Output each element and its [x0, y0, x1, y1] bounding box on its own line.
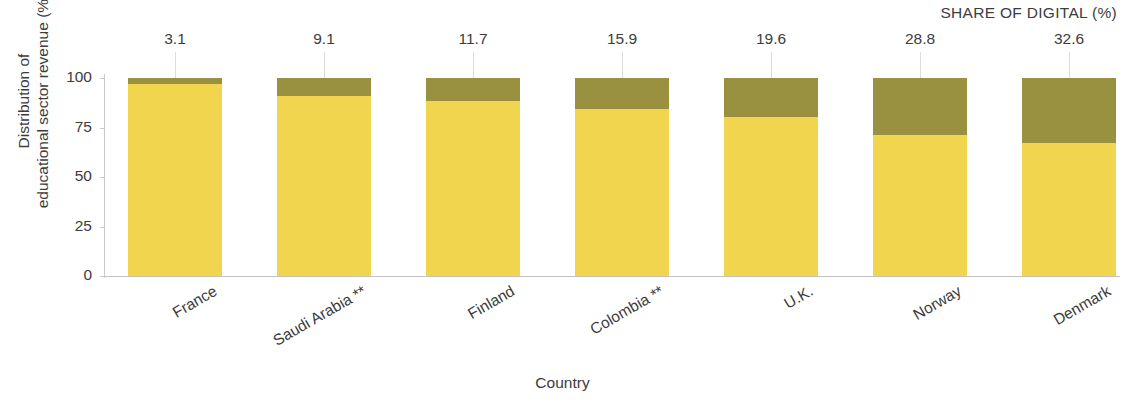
x-axis-tick-label: Denmark [1051, 282, 1114, 329]
value-leader-line [771, 52, 772, 78]
bar-segment-non-digital[interactable] [1022, 143, 1116, 276]
x-axis-tick-label: Norway [910, 282, 965, 324]
bar-segment-non-digital[interactable] [277, 96, 371, 276]
value-leader-line [622, 52, 623, 78]
bar-value-label: 9.1 [264, 30, 384, 48]
y-axis-tick-mark [100, 78, 105, 79]
bar-value-label: 32.6 [1009, 30, 1125, 48]
bar-segment-non-digital[interactable] [128, 84, 222, 276]
bar-value-label: 11.7 [413, 30, 533, 48]
bar-value-label: 28.8 [860, 30, 980, 48]
y-axis-tick-mark [100, 227, 105, 228]
y-axis-tick-label: 25 [52, 217, 92, 235]
y-axis-tick-label: 50 [52, 167, 92, 185]
bar-segment-digital[interactable] [1022, 78, 1116, 143]
x-axis-tick-label: Finland [465, 282, 518, 323]
bar-segment-non-digital[interactable] [426, 101, 520, 276]
x-axis-tick-label: Colombia ** [587, 282, 667, 339]
y-axis-tick-mark [100, 128, 105, 129]
bar-value-label: 3.1 [115, 30, 235, 48]
x-axis-tick-label: Saudi Arabia ** [270, 282, 369, 350]
bar-colombia[interactable] [575, 78, 669, 276]
x-axis-title: Country [0, 374, 1125, 392]
bar-segment-digital[interactable] [426, 78, 520, 101]
x-axis-tick-label: France [169, 282, 220, 322]
y-axis-tick-mark [100, 177, 105, 178]
y-axis-tick-label: 100 [52, 68, 92, 86]
y-axis-line [104, 74, 105, 278]
bar-segment-non-digital[interactable] [575, 109, 669, 276]
bar-value-label: 19.6 [711, 30, 831, 48]
bar-denmark[interactable] [1022, 78, 1116, 276]
bar-segment-digital[interactable] [873, 78, 967, 135]
bar-finland[interactable] [426, 78, 520, 276]
share-of-digital-header: SHARE OF DIGITAL (%) [940, 4, 1117, 22]
value-leader-line [324, 52, 325, 78]
y-axis-title-line1: Distribution of [14, 54, 33, 149]
stacked-bar-chart: SHARE OF DIGITAL (%) Distribution of edu… [0, 0, 1125, 408]
bar-segment-digital[interactable] [575, 78, 669, 109]
y-axis-tick-label: 75 [52, 118, 92, 136]
bar-segment-non-digital[interactable] [873, 135, 967, 276]
bar-u-k[interactable] [724, 78, 818, 276]
bar-segment-digital[interactable] [724, 78, 818, 117]
x-axis-line [104, 276, 1120, 277]
y-axis-tick-label: 0 [52, 266, 92, 284]
y-axis-title-line2: educational sector revenue (%) [33, 0, 52, 208]
bar-segment-digital[interactable] [277, 78, 371, 96]
bar-france[interactable] [128, 78, 222, 276]
value-leader-line [1069, 52, 1070, 78]
value-leader-line [175, 52, 176, 78]
bar-value-label: 15.9 [562, 30, 682, 48]
bar-segment-non-digital[interactable] [724, 117, 818, 276]
bar-saudi-arabia[interactable] [277, 78, 371, 276]
bar-norway[interactable] [873, 78, 967, 276]
value-leader-line [920, 52, 921, 78]
x-axis-tick-label: U.K. [781, 282, 816, 313]
value-leader-line [473, 52, 474, 78]
y-axis-tick-mark [100, 276, 105, 277]
